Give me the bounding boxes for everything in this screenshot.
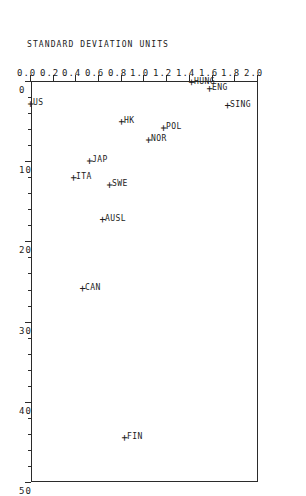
x-axis-minor-tick [28,290,31,291]
x-axis-major-tick [25,322,31,323]
plus-marker-icon: + [68,175,79,182]
x-axis-tick-label: 30 [19,327,32,336]
x-axis-minor-tick [28,466,31,467]
y-axis-tick-label: 2.0 [244,69,263,78]
y-axis-tick-label: 0.2 [40,69,59,78]
plus-marker-icon: + [186,79,197,86]
plus-marker-icon: + [143,137,154,144]
plus-marker-icon: + [158,125,169,132]
x-axis-minor-tick [28,354,31,355]
x-axis-minor-tick [28,193,31,194]
x-axis-minor-tick [28,418,31,419]
x-axis-major-tick [25,161,31,162]
y-axis-tick-label: 1.6 [199,69,218,78]
x-axis-minor-tick [28,145,31,146]
plus-marker-icon: + [119,434,130,441]
x-axis-major-tick [25,402,31,403]
y-axis-tick-label: 0.4 [62,69,81,78]
x-axis-minor-tick [28,370,31,371]
y-axis-tick-label: 0.0 [17,69,36,78]
x-axis-minor-tick [28,338,31,339]
x-axis-tick-label: 10 [19,166,32,175]
x-axis-major-tick [25,241,31,242]
y-axis-tick-label: 0.8 [108,69,127,78]
plot-frame: FIN+CAN+AUSL+SWE+ITA+JAP+NOR+POL+HK+SING… [31,81,258,482]
x-axis-minor-tick [28,113,31,114]
x-axis-minor-tick [28,434,31,435]
x-axis-major-tick [25,482,31,483]
x-axis-minor-tick [28,450,31,451]
x-axis-minor-tick [28,177,31,178]
y-axis-tick-label: 0.6 [85,69,104,78]
y-axis-tick-label: 1.4 [176,69,195,78]
x-axis-minor-tick [28,273,31,274]
y-axis-title: STANDARD DEVIATION UNITS [27,41,169,49]
x-axis-tick-label: 0 [19,86,25,95]
x-axis-minor-tick [28,97,31,98]
x-axis-tick-label: 20 [19,246,32,255]
x-axis-minor-tick [28,257,31,258]
x-axis-minor-tick [28,306,31,307]
y-axis-tick-label: 1.0 [131,69,150,78]
x-axis-tick-label: 50 [19,487,32,496]
plus-marker-icon: + [77,285,88,292]
y-axis-tick-label: 1.8 [221,69,240,78]
plus-marker-icon: + [204,86,215,93]
x-axis-tick-label: 40 [19,407,32,416]
plus-marker-icon: + [97,216,108,223]
x-axis-minor-tick [28,129,31,130]
plus-marker-icon: + [104,182,115,189]
x-axis-minor-tick [28,225,31,226]
plus-marker-icon: + [84,158,95,165]
y-axis-tick-label: 1.2 [153,69,172,78]
plus-marker-icon: + [116,118,127,125]
plus-marker-icon: + [223,102,234,109]
plus-marker-icon: + [25,101,36,108]
x-axis-minor-tick [28,209,31,210]
x-axis-minor-tick [28,386,31,387]
x-axis-major-tick [25,81,31,82]
